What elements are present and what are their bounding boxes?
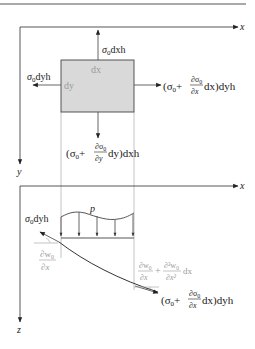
element-height-label: dy	[64, 80, 74, 91]
svg-text:(σ0+: (σ0+	[66, 147, 85, 161]
load-curve	[61, 212, 134, 219]
x-axis-label-upper: x	[239, 21, 245, 32]
y-axis-label-upper: y	[16, 166, 22, 177]
svg-text:dy)dxh: dy)dxh	[108, 147, 140, 160]
svg-text:(σ0+: (σ0+	[163, 80, 182, 94]
svg-text:∂w0: ∂w0	[139, 261, 152, 271]
svg-text:∂x²: ∂x²	[166, 273, 177, 282]
lower-panel: x z p σ0dyh ∂w0 ∂x	[16, 180, 245, 335]
slope-label-left: ∂w0 ∂x	[39, 249, 56, 272]
svg-text:∂σ0: ∂σ0	[95, 142, 106, 152]
svg-text:∂²w0: ∂²w0	[164, 261, 179, 271]
load-arrows	[61, 212, 133, 236]
plate-element-diagram: x y dx dy σ0dxh σ0dyh (σ0+ ∂σ0 ∂x dx)dyh	[0, 0, 255, 349]
element-width-label: dx	[91, 64, 101, 75]
z-axis-label-lower: z	[16, 324, 21, 335]
force-label-lower-right: (σ0+ ∂σ0 ∂x dx)dyh	[161, 289, 234, 310]
svg-text:dx: dx	[183, 266, 193, 276]
slope-angle-left	[46, 238, 50, 243]
svg-text:∂x: ∂x	[41, 262, 49, 272]
svg-text:+: +	[155, 265, 161, 276]
svg-text:∂x: ∂x	[140, 273, 148, 282]
svg-text:∂x: ∂x	[189, 301, 197, 310]
force-label-lower-left: σ0dyh	[25, 213, 48, 226]
x-axis-label-lower: x	[239, 180, 245, 191]
svg-text:∂w0: ∂w0	[40, 249, 54, 260]
slope-label-right: ∂w0 ∂x + ∂²w0 ∂x² dx	[138, 261, 193, 282]
load-label: p	[89, 203, 95, 214]
svg-text:(σ0+: (σ0+	[161, 294, 180, 308]
svg-text:∂σ0: ∂σ0	[191, 75, 202, 85]
svg-text:∂y: ∂y	[95, 154, 103, 163]
force-label-bottom: (σ0+ ∂σ0 ∂y dy)dxh	[66, 142, 140, 163]
svg-text:∂x: ∂x	[191, 87, 199, 96]
svg-text:∂σ0: ∂σ0	[189, 289, 200, 299]
force-label-right: (σ0+ ∂σ0 ∂x dx)dyh	[163, 75, 236, 96]
force-label-top: σ0dxh	[102, 44, 125, 57]
svg-text:dx)dyh: dx)dyh	[204, 80, 236, 93]
force-arrow-lower-left	[40, 232, 59, 242]
force-label-left: σ0dyh	[27, 71, 50, 84]
svg-text:dx)dyh: dx)dyh	[202, 294, 234, 307]
